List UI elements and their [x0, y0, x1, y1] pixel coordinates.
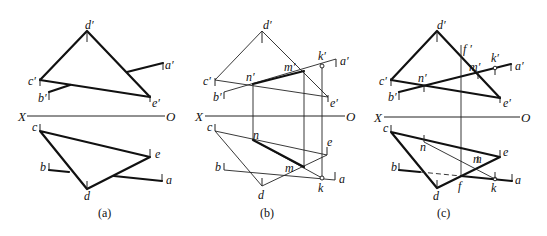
label-c1: c′: [28, 74, 36, 88]
label-d1: d′: [437, 18, 446, 32]
descriptive-geometry-figure: d′ c′ e′ a′ b′ X O c e b a d (a): [0, 0, 547, 236]
line-ab-top-left: [49, 170, 69, 172]
label-d1: d′: [85, 18, 94, 32]
label-e: e: [327, 135, 333, 149]
label-a: a: [515, 173, 521, 187]
line-ab-top: [224, 170, 335, 180]
label-f: f: [458, 179, 463, 193]
label-e1: e′: [503, 96, 511, 110]
label-b: b: [40, 160, 46, 174]
label-n1: n′: [246, 70, 255, 84]
axis-label-o: O: [346, 109, 356, 124]
label-n1: n′: [418, 71, 427, 85]
label-e1: e′: [152, 96, 160, 110]
point-k1: [320, 64, 324, 68]
caption-b: (b): [260, 206, 274, 220]
triangle-top: [391, 132, 500, 188]
label-c: c: [383, 121, 389, 135]
triangle-front-edges: [40, 31, 150, 97]
line-ab-top-right: [114, 176, 162, 181]
line-ab-front-right: [127, 63, 163, 72]
label-m1: m′: [284, 60, 296, 74]
label-e: e: [155, 147, 161, 161]
label-a1: a′: [515, 59, 524, 73]
label-m: m: [285, 161, 294, 175]
label-c: c: [32, 120, 38, 134]
label-k: k: [318, 181, 324, 195]
label-e: e: [503, 145, 509, 159]
triangle-front-edges: [215, 31, 328, 97]
point-k: [320, 176, 324, 180]
label-m1: m′: [469, 60, 481, 74]
triangle-front-ce: [215, 80, 328, 97]
axis-label-x: X: [17, 109, 27, 124]
label-k: k: [491, 181, 497, 195]
label-a: a: [166, 173, 172, 187]
label-b1: b′: [38, 91, 47, 105]
caption-a: (a): [98, 206, 111, 220]
label-n: n: [420, 140, 426, 154]
panel-b: d′ c′ e′ a′ b′ n′ m′ k′ X O c e b a n m …: [194, 18, 356, 220]
label-c1: c′: [379, 74, 387, 88]
label-c: c: [207, 120, 213, 134]
label-n: n: [253, 128, 259, 142]
label-e1: e′: [330, 96, 338, 110]
label-b1: b′: [388, 90, 397, 104]
axis-label-x: X: [194, 109, 204, 124]
label-a1: a′: [340, 54, 349, 68]
segment-mn-front: [253, 71, 304, 84]
label-k1: k′: [491, 51, 499, 65]
label-c1: c′: [203, 74, 211, 88]
line-ab-top-right: [461, 176, 512, 181]
axis-label-x: X: [373, 110, 383, 125]
point-k1: [493, 66, 497, 70]
label-k1: k′: [318, 49, 326, 63]
line-ab-front-left: [49, 85, 70, 92]
label-a1: a′: [165, 58, 174, 72]
label-b1: b′: [213, 90, 222, 104]
segment-mn-top: [253, 140, 304, 167]
panel-c: d′ c′ e′ a′ b′ n′ m′ k′ f ′ X O c e b a …: [373, 18, 531, 220]
label-f1: f ′: [463, 42, 472, 56]
label-d: d: [433, 189, 440, 203]
axis-label-o: O: [166, 109, 176, 124]
axis-label-o: O: [521, 110, 531, 125]
label-b: b: [215, 160, 221, 174]
label-b: b: [391, 160, 397, 174]
label-m: m: [473, 152, 482, 166]
line-ab-front: [224, 59, 336, 92]
label-d: d: [84, 189, 91, 203]
label-d: d: [258, 188, 265, 202]
triangle-top: [40, 131, 150, 189]
line-ab-top-left: [399, 170, 420, 172]
label-a: a: [339, 172, 345, 186]
label-d1: d′: [263, 18, 272, 32]
panel-a: d′ c′ e′ a′ b′ X O c e b a d (a): [17, 18, 176, 220]
caption-c: (c): [437, 206, 450, 220]
